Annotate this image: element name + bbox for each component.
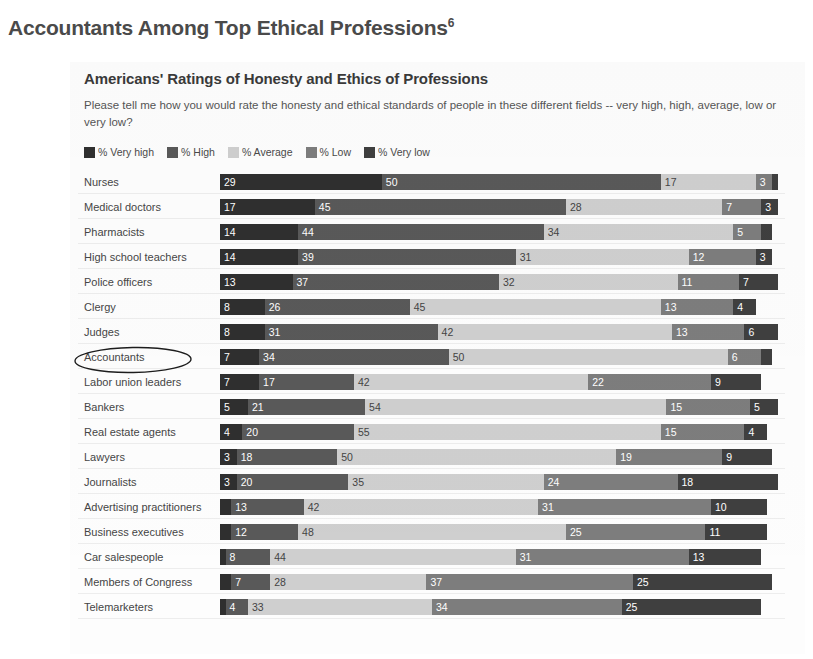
chart-row: Members of Congress7283725 [70, 569, 805, 594]
bar-segment-very-low: 5 [750, 399, 778, 415]
row-label-clergy: Clergy [70, 301, 220, 313]
chart-rows: Nurses2950173Medical doctors17452873Phar… [70, 169, 805, 619]
legend-label: % High [181, 146, 215, 158]
row-label-high-school-teachers: High school teachers [70, 251, 220, 263]
stacked-bar: 4333425 [220, 599, 778, 615]
row-label-text: High school teachers [84, 251, 187, 263]
legend-swatch-icon [364, 147, 375, 158]
bar-segment-very-low: 3 [761, 199, 778, 215]
bar-segment-low: 6 [728, 349, 761, 365]
legend-label: % Average [242, 146, 293, 158]
bar-segment-low: 37 [426, 574, 632, 590]
legend-item-very-high: % Very high [84, 146, 154, 158]
row-label-text: Advertising practitioners [84, 501, 201, 513]
row-label-car-salespeople: Car salespeople [70, 551, 220, 563]
chart-row: Bankers52154155 [70, 394, 805, 419]
gallup-chart-panel: Americans' Ratings of Honesty and Ethics… [70, 62, 805, 654]
page-title-text: Accountants Among Top Ethical Profession… [8, 16, 448, 39]
bar-segment-low: 19 [616, 449, 722, 465]
bar-segment-very-low: 3 [756, 249, 773, 265]
row-label-medical-doctors: Medical doctors [70, 201, 220, 213]
bar-segment-high: 8 [226, 549, 271, 565]
bar-segment-average: 34 [544, 224, 734, 240]
stacked-bar: 83142136 [220, 324, 778, 340]
bar-segment-low: 7 [722, 199, 761, 215]
bar-segment-average: 32 [499, 274, 678, 290]
row-label-text: Journalists [84, 476, 137, 488]
bar-segment-average: 50 [449, 349, 728, 365]
bar-segment-very-high: 14 [220, 224, 298, 240]
bar-segment-very-low: 18 [678, 474, 778, 490]
bar-segment-very-high: 17 [220, 199, 315, 215]
bar-segment-high: 18 [237, 449, 337, 465]
bar-segment-high: 26 [265, 299, 410, 315]
row-label-text: Nurses [84, 176, 119, 188]
bar-segment-average: 42 [438, 324, 672, 340]
bar-segment-high: 34 [259, 349, 449, 365]
bar-segment-very-low: 9 [711, 374, 761, 390]
bar-segment-very-low: 10 [711, 499, 767, 515]
chart-legend: % Very high% High% Average% Low% Very lo… [84, 145, 805, 159]
stacked-bar: 31850199 [220, 449, 778, 465]
bar-segment-average: 44 [270, 549, 516, 565]
bar-segment-high: 50 [382, 174, 661, 190]
row-label-text: Members of Congress [84, 576, 192, 588]
row-label-text: Real estate agents [84, 426, 176, 438]
bar-segment-very-low: 13 [689, 549, 762, 565]
row-label-nurses: Nurses [70, 176, 220, 188]
row-label-members-of-congress: Members of Congress [70, 576, 220, 588]
chart-row: Lawyers31850199 [70, 444, 805, 469]
legend-item-very-low: % Very low [364, 146, 430, 158]
bar-segment-very-high: 7 [220, 374, 259, 390]
row-label-journalists: Journalists [70, 476, 220, 488]
stacked-bar: 734506 [220, 349, 778, 365]
row-label-text: Accountants [84, 351, 145, 363]
chart-title: Americans' Ratings of Honesty and Ethics… [84, 70, 805, 87]
legend-item-average: % Average [228, 146, 293, 158]
bar-segment-low: 12 [689, 249, 756, 265]
row-label-real-estate-agents: Real estate agents [70, 426, 220, 438]
bar-segment-low: 11 [678, 274, 739, 290]
bar-segment-high: 20 [237, 474, 349, 490]
bar-segment-low: 15 [661, 424, 745, 440]
chart-row: Pharmacists1444345 [70, 219, 805, 244]
bar-segment-average: 42 [304, 499, 538, 515]
bar-segment-high: 20 [242, 424, 354, 440]
stacked-bar: 13423110 [220, 499, 778, 515]
bar-segment-high: 7 [231, 574, 270, 590]
bar-segment-very-high: 4 [220, 424, 242, 440]
row-label-telemarketers: Telemarketers [70, 601, 220, 613]
row-label-text: Bankers [84, 401, 124, 413]
legend-swatch-icon [228, 147, 239, 158]
bar-segment-low: 15 [666, 399, 750, 415]
stacked-bar: 7283725 [220, 574, 778, 590]
bar-segment-very-low: 4 [733, 299, 755, 315]
legend-item-low: % Low [306, 146, 352, 158]
row-label-text: Lawyers [84, 451, 125, 463]
bar-segment-high: 12 [231, 524, 298, 540]
stacked-bar: 71742229 [220, 374, 778, 390]
bar-segment-average: 35 [348, 474, 543, 490]
row-label-accountants: Accountants [70, 351, 220, 363]
bar-segment-very-high [220, 574, 231, 590]
stacked-bar: 12482511 [220, 524, 778, 540]
chart-row: Labor union leaders71742229 [70, 369, 805, 394]
bar-segment-very-low [761, 224, 772, 240]
page-title: Accountants Among Top Ethical Profession… [8, 16, 454, 40]
legend-label: % Very low [378, 146, 430, 158]
row-label-bankers: Bankers [70, 401, 220, 413]
bar-segment-low: 34 [432, 599, 622, 615]
bar-segment-low: 5 [733, 224, 761, 240]
bar-segment-high: 44 [298, 224, 544, 240]
legend-label: % Low [320, 146, 352, 158]
chart-row: Business executives12482511 [70, 519, 805, 544]
bar-segment-high: 31 [265, 324, 438, 340]
bar-segment-average: 31 [516, 249, 689, 265]
bar-segment-high: 21 [248, 399, 365, 415]
row-label-text: Business executives [84, 526, 184, 538]
row-label-labor-union-leaders: Labor union leaders [70, 376, 220, 388]
stacked-bar: 143931123 [220, 249, 778, 265]
row-label-text: Car salespeople [84, 551, 164, 563]
row-label-pharmacists: Pharmacists [70, 226, 220, 238]
row-label-business-executives: Business executives [70, 526, 220, 538]
